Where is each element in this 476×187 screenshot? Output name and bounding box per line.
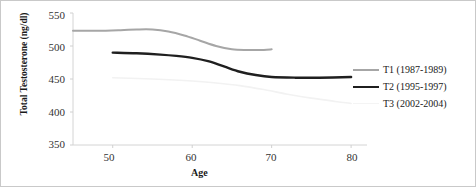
legend-label-t1: T1 (1987-1989) — [383, 64, 447, 75]
series-line-t1 — [73, 29, 272, 50]
legend-swatch-t3 — [353, 103, 379, 104]
legend-item-t2: T2 (1995-1997) — [353, 78, 447, 95]
legend-item-t1: T1 (1987-1989) — [353, 61, 447, 78]
chart-figure: Total Testosterone (ng/dl) Age 550 500 4… — [0, 0, 476, 187]
legend-swatch-t2 — [353, 86, 379, 88]
series-line-t3 — [113, 78, 351, 104]
series-line-t2 — [113, 53, 351, 78]
legend-item-t3: T3 (2002-2004) — [353, 95, 447, 112]
legend: T1 (1987-1989) T2 (1995-1997) T3 (2002-2… — [353, 61, 447, 112]
legend-label-t3: T3 (2002-2004) — [383, 98, 447, 109]
legend-label-t2: T2 (1995-1997) — [383, 81, 447, 92]
legend-swatch-t1 — [353, 69, 379, 71]
